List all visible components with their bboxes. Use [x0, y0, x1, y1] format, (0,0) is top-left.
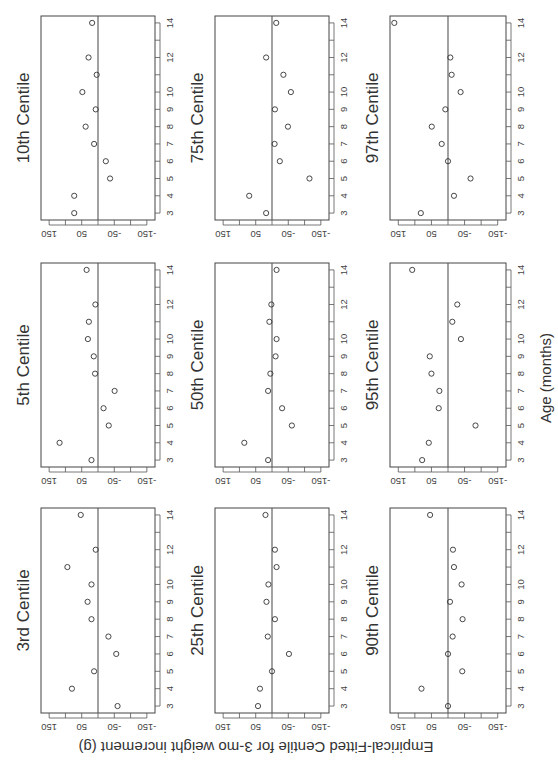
x-tick-label: 6	[515, 159, 526, 164]
data-point	[91, 669, 96, 674]
data-point	[89, 582, 94, 587]
x-tick-label: 9	[164, 599, 175, 604]
data-point	[450, 319, 455, 324]
x-tick-label: 10	[338, 87, 349, 98]
data-point	[428, 512, 433, 517]
x-tick-label: 5	[338, 423, 349, 428]
x-tick-label: 5	[164, 176, 175, 181]
data-point	[269, 302, 274, 307]
x-tick-label: 4	[164, 686, 175, 691]
x-tick-label: 14	[338, 265, 349, 276]
data-point	[289, 423, 294, 428]
data-point	[468, 176, 473, 181]
data-point	[272, 547, 277, 552]
data-point	[85, 599, 90, 604]
data-point	[274, 267, 279, 272]
y-tick-label: 150	[215, 722, 231, 733]
x-tick-label: 5	[338, 176, 349, 181]
y-tick-label: -50	[458, 722, 472, 733]
x-axis-title: Age (months)	[537, 333, 554, 423]
y-tick-label: -50	[107, 722, 121, 733]
x-tick-label: 9	[515, 354, 526, 359]
data-point	[264, 210, 269, 215]
data-point	[264, 55, 269, 60]
data-point	[83, 124, 88, 129]
x-tick-label: 3	[164, 457, 175, 462]
x-tick-label: 10	[164, 87, 175, 98]
x-tick-label: 7	[338, 388, 349, 393]
x-tick-label: 6	[338, 651, 349, 656]
data-point	[86, 319, 91, 324]
data-point	[439, 141, 444, 146]
data-point	[80, 89, 85, 94]
data-point	[242, 440, 247, 445]
data-point	[272, 141, 277, 146]
x-tick-label: 12	[515, 299, 526, 310]
data-point	[93, 302, 98, 307]
data-point	[288, 89, 293, 94]
x-tick-label: 14	[515, 510, 526, 521]
x-tick-label: 12	[338, 299, 349, 310]
y-tick-label: -150	[311, 722, 330, 733]
x-tick-label: 10	[164, 334, 175, 345]
x-tick-label: 7	[164, 634, 175, 639]
x-tick-label: 3	[515, 210, 526, 215]
data-point	[450, 634, 455, 639]
x-tick-label: 12	[164, 544, 175, 555]
panel-title: 90th Centile	[363, 565, 382, 656]
y-tick-label: -150	[311, 476, 330, 487]
panel-title: 3rd Centile	[14, 569, 33, 651]
data-point	[69, 686, 74, 691]
data-point	[101, 406, 106, 411]
data-point	[451, 564, 456, 569]
x-tick-label: 9	[338, 354, 349, 359]
data-point	[273, 354, 278, 359]
x-tick-label: 5	[338, 669, 349, 674]
x-tick-label: 6	[164, 651, 175, 656]
panel-50th-centile: 50th Centile15050-50-1503456789101214	[188, 263, 349, 487]
data-point	[267, 319, 272, 324]
panel-title: 75th Centile	[188, 73, 207, 164]
x-tick-label: 7	[515, 634, 526, 639]
data-point	[265, 457, 270, 462]
data-point	[426, 440, 431, 445]
data-point	[307, 176, 312, 181]
x-tick-label: 7	[515, 141, 526, 146]
data-point	[451, 193, 456, 198]
x-tick-label: 3	[338, 457, 349, 462]
x-tick-label: 10	[338, 334, 349, 345]
y-tick-label: -150	[137, 229, 156, 240]
y-tick-label: 150	[41, 229, 57, 240]
data-point	[458, 336, 463, 341]
x-tick-label: 3	[164, 703, 175, 708]
y-tick-label: 50	[76, 476, 87, 487]
y-tick-label: 150	[41, 722, 57, 733]
data-point	[114, 651, 119, 656]
data-point	[247, 193, 252, 198]
x-tick-label: 5	[515, 669, 526, 674]
data-point	[427, 354, 432, 359]
x-tick-label: 4	[338, 686, 349, 691]
data-point	[90, 20, 95, 25]
y-tick-label: 150	[41, 476, 57, 487]
data-point	[459, 582, 464, 587]
x-tick-label: 4	[338, 440, 349, 445]
data-point	[107, 176, 112, 181]
panel-title: 95th Centile	[363, 320, 382, 411]
y-tick-label: -50	[107, 229, 121, 240]
y-tick-label: -150	[137, 476, 156, 487]
x-tick-label: 14	[515, 265, 526, 276]
x-tick-label: 8	[515, 371, 526, 376]
data-point	[89, 617, 94, 622]
x-tick-label: 7	[164, 141, 175, 146]
x-tick-label: 9	[515, 107, 526, 112]
data-point	[437, 388, 442, 393]
x-tick-label: 4	[164, 193, 175, 198]
x-tick-label: 3	[164, 210, 175, 215]
data-point	[85, 336, 90, 341]
x-tick-label: 12	[164, 299, 175, 310]
data-point	[57, 440, 62, 445]
data-point	[84, 267, 89, 272]
panel-97th-centile: 97th Centile15050-50-1503456789101214	[363, 16, 526, 240]
data-point	[91, 141, 96, 146]
